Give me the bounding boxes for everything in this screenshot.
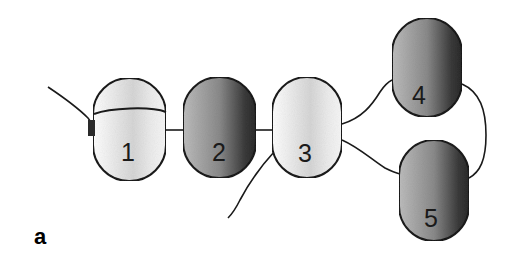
cell-chain-diagram: 1 2 3 4 5 a: [0, 0, 514, 257]
cell-4: 4: [392, 18, 462, 117]
panel-label: a: [34, 224, 47, 249]
cell-2-label: 2: [212, 138, 226, 166]
cell-1: 1: [88, 78, 166, 181]
thread-3-4: [342, 80, 392, 124]
cell-4-label: 4: [412, 81, 426, 109]
cell-3-label: 3: [298, 139, 312, 167]
cell-5-label: 5: [424, 204, 438, 232]
cell-1-label: 1: [121, 138, 135, 166]
cell-2: 2: [183, 77, 256, 178]
cell-5: 5: [399, 140, 469, 241]
cell-1-knot-mark: [88, 120, 95, 136]
cell-4-body: [392, 18, 462, 117]
cell-3: 3: [272, 77, 342, 178]
thread-3-5: [342, 140, 400, 174]
thread-left-tail: [48, 87, 93, 130]
